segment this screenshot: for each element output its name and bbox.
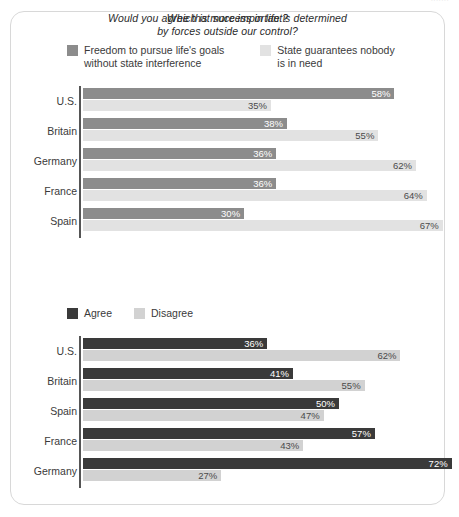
bar-value-label: 35% [248,101,267,111]
legend-swatch-agree-icon [67,308,78,319]
bar-group-us: U.S.36%62% [81,336,444,366]
bar-value-label: 43% [280,441,299,451]
bar-value-label: 36% [253,179,272,189]
bar-france-series1: 36% [83,178,276,189]
chart-importance-plot: U.S.58%35%Britain38%55%Germany36%62%Fran… [79,86,444,238]
bar-value-label: 57% [352,429,371,439]
category-label-germany: Germany [15,465,77,477]
chart-success-forces-plot: U.S.36%62%Britain41%55%Spain50%47%France… [79,336,444,488]
bar-group-us: U.S.58%35% [81,86,444,116]
bar-britain-series2: 55% [83,130,378,141]
bar-us-series2: 35% [83,100,271,111]
bar-britain-series1: 41% [83,368,293,379]
figure-card: Which is more important? Freedom to purs… [10,11,445,505]
legend-item-agree[interactable]: Agree [67,307,112,320]
legend-swatch-disagree-icon [134,308,145,319]
legend-swatch-freedom-icon [67,45,78,56]
top-cut-ghost-text: ....... [431,0,449,3]
bar-spain-series2: 47% [83,410,324,421]
top-cut-strip: ....... [0,0,459,9]
chart-success-forces-title: Would you agree that success in life is … [11,12,444,38]
bar-britain-series1: 38% [83,118,287,129]
bar-value-label: 36% [244,339,263,349]
legend-label-state-guarantee: State guarantees nobody is in need [277,44,394,70]
category-label-germany: Germany [15,155,77,167]
bar-value-label: 50% [316,399,335,409]
category-label-britain: Britain [15,375,77,387]
bar-britain-series2: 55% [83,380,365,391]
bar-value-label: 55% [342,381,361,391]
bar-value-label: 27% [198,471,217,481]
bar-group-france: France57%43% [81,426,444,456]
legend-label-disagree: Disagree [151,307,193,320]
bar-value-label: 55% [355,131,374,141]
legend-item-disagree[interactable]: Disagree [134,307,193,320]
legend-swatch-state-guarantee-icon [260,45,271,56]
bar-us-series1: 36% [83,338,267,349]
legend-item-freedom[interactable]: Freedom to pursue life's goals without s… [67,44,224,70]
category-label-britain: Britain [15,125,77,137]
chart-success-forces-legend: AgreeDisagree [67,307,193,320]
bar-spain-series1: 50% [83,398,339,409]
bar-value-label: 62% [393,161,412,171]
bar-germany-series1: 72% [83,458,452,469]
bar-group-spain: Spain50%47% [81,396,444,426]
bar-us-series2: 62% [83,350,400,361]
bar-germany-series1: 36% [83,148,276,159]
bar-germany-series2: 27% [83,470,221,481]
category-label-france: France [15,435,77,447]
bar-value-label: 41% [270,369,289,379]
bar-value-label: 30% [221,209,240,219]
bar-spain-series2: 67% [83,220,443,231]
bar-germany-series2: 62% [83,160,416,171]
legend-item-state-guarantee[interactable]: State guarantees nobody is in need [260,44,394,70]
bar-group-spain: Spain30%67% [81,206,444,236]
bar-group-france: France36%64% [81,176,444,206]
bar-value-label: 72% [429,459,448,469]
bar-france-series2: 64% [83,190,427,201]
bar-value-label: 67% [420,221,439,231]
category-label-us: U.S. [15,345,77,357]
category-label-spain: Spain [15,405,77,417]
bar-value-label: 38% [264,119,283,129]
bar-france-series2: 43% [83,440,303,451]
bar-group-britain: Britain41%55% [81,366,444,396]
legend-label-agree: Agree [84,307,112,320]
bar-us-series1: 58% [83,88,394,99]
bar-group-germany: Germany36%62% [81,146,444,176]
chart-success-forces: Would you agree that success in life is … [11,12,444,38]
bar-value-label: 36% [253,149,272,159]
bar-group-britain: Britain38%55% [81,116,444,146]
bar-value-label: 64% [404,191,423,201]
bar-group-germany: Germany72%27% [81,456,444,486]
bar-value-label: 47% [301,411,320,421]
bar-value-label: 58% [371,89,390,99]
chart-importance-legend: Freedom to pursue life's goals without s… [67,44,395,70]
bar-value-label: 62% [377,351,396,361]
category-label-france: France [15,185,77,197]
category-label-spain: Spain [15,215,77,227]
bar-france-series1: 57% [83,428,375,439]
legend-label-freedom: Freedom to pursue life's goals without s… [84,44,224,70]
bar-spain-series1: 30% [83,208,244,219]
category-label-us: U.S. [15,95,77,107]
